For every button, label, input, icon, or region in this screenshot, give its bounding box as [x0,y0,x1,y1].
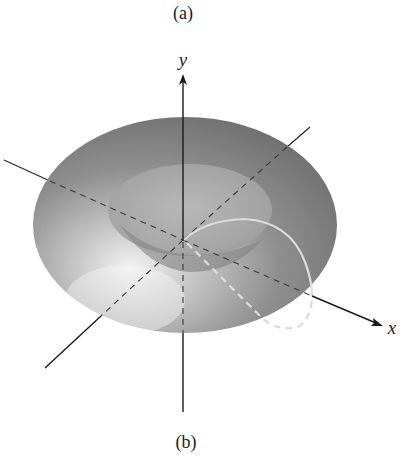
torus-hole-band [108,164,272,256]
torus-surface [33,117,337,335]
diagonal-axis-upper-left [4,160,50,181]
diagonal-axis-lower-left [45,316,101,368]
torus-highlight [65,265,185,335]
torus-diagram [0,0,404,461]
x-axis [312,296,376,323]
diagonal-axis-upper-right [287,127,310,147]
